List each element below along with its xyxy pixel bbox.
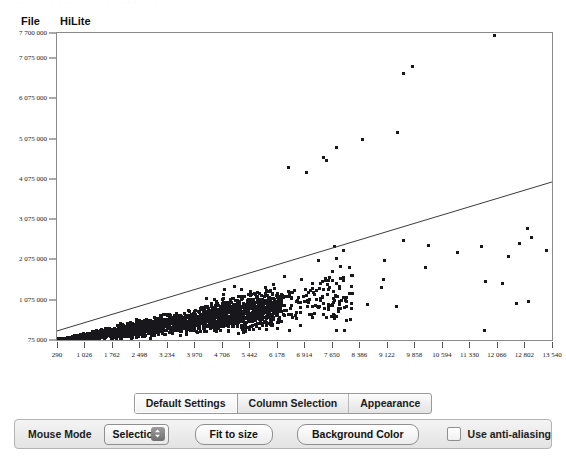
y-tick-mark: [49, 138, 56, 139]
x-tick-mark: [222, 342, 223, 348]
regression-line: [57, 33, 552, 340]
menu-bar: File HiLite: [0, 10, 566, 31]
x-tick-mark: [167, 342, 168, 348]
x-tick-mark: [332, 342, 333, 348]
x-tick-label: 3 234: [159, 351, 175, 359]
y-tick-label: 3 075 000: [19, 215, 47, 223]
use-antialiasing-checkbox[interactable]: [447, 427, 461, 441]
tab-appearance[interactable]: Appearance: [349, 394, 431, 413]
x-tick-mark: [57, 342, 58, 348]
y-tick-label: 7 075 000: [19, 54, 47, 62]
x-tick-label: 11 330: [460, 351, 479, 359]
background-color-button[interactable]: Background Color: [297, 424, 419, 445]
y-tick-label: 1 075 000: [19, 296, 47, 304]
x-tick-label: 10 594: [432, 351, 451, 359]
x-tick-label: 9 858: [407, 351, 423, 359]
x-tick-mark: [442, 342, 443, 348]
window-title-ghost: · · · · · · · · · · · · · · · · · · · · …: [10, 0, 165, 7]
x-tick-mark: [497, 342, 498, 348]
x-tick-label: 8 386: [352, 351, 368, 359]
x-tick-mark: [552, 342, 553, 348]
y-tick-mark: [49, 33, 56, 34]
x-tick-mark: [387, 342, 388, 348]
x-tick-label: 1 762: [104, 351, 120, 359]
y-tick-label: 7 700 000: [19, 29, 47, 37]
plot-area[interactable]: [56, 32, 553, 341]
x-tick-mark: [194, 342, 195, 348]
x-tick-label: 1 026: [77, 351, 93, 359]
x-tick-label: 7 650: [324, 351, 340, 359]
bottom-toolbar: Mouse Mode Selection Fit to size Backgro…: [14, 419, 552, 449]
regression-line-segment: [57, 182, 552, 331]
y-tick-label: 6 075 000: [19, 94, 47, 102]
x-tick-mark: [277, 342, 278, 348]
scatter-plot-window: · · · · · · · · · · · · · · · · · · · · …: [0, 0, 566, 459]
window-top-strip: · · · · · · · · · · · · · · · · · · · · …: [0, 0, 566, 10]
y-tick-mark: [49, 219, 56, 220]
x-tick-mark: [524, 342, 525, 348]
tab-column-selection[interactable]: Column Selection: [238, 394, 350, 413]
fit-to-size-button[interactable]: Fit to size: [195, 424, 273, 445]
chevron-updown-icon: [151, 427, 165, 441]
x-tick-label: 290: [52, 351, 63, 359]
segmented-control: Default Settings Column Selection Appear…: [134, 393, 433, 414]
x-tick-label: 12 802: [515, 351, 534, 359]
y-tick-mark: [49, 340, 56, 341]
x-tick-mark: [304, 342, 305, 348]
x-axis: 2901 0261 7622 4983 2343 9704 7065 4426 …: [0, 342, 566, 364]
use-antialiasing-row[interactable]: Use anti-aliasing: [447, 427, 551, 441]
x-tick-label: 3 970: [187, 351, 203, 359]
y-tick-label: 4 075 000: [19, 175, 47, 183]
settings-tabstrip: Default Settings Column Selection Appear…: [0, 392, 566, 414]
x-tick-label: 2 498: [132, 351, 148, 359]
mouse-mode-select[interactable]: Selection: [104, 424, 169, 445]
y-tick-label: 2 075 000: [19, 255, 47, 263]
y-tick-mark: [49, 299, 56, 300]
x-tick-label: 9 122: [379, 351, 395, 359]
x-tick-mark: [469, 342, 470, 348]
menu-hilite[interactable]: HiLite: [53, 14, 98, 28]
y-tick-mark: [49, 178, 56, 179]
y-axis: 75 0001 075 0002 075 0003 075 0004 075 0…: [0, 32, 56, 342]
y-tick-label: 5 075 000: [19, 135, 47, 143]
mouse-mode-label: Mouse Mode: [28, 428, 92, 440]
x-tick-mark: [139, 342, 140, 348]
use-antialiasing-label: Use anti-aliasing: [468, 428, 551, 440]
x-tick-label: 4 706: [214, 351, 230, 359]
x-tick-mark: [249, 342, 250, 348]
y-tick-mark: [49, 259, 56, 260]
x-tick-label: 5 442: [242, 351, 258, 359]
tab-default-settings[interactable]: Default Settings: [134, 394, 238, 413]
x-tick-label: 6 914: [297, 351, 313, 359]
x-tick-mark: [414, 342, 415, 348]
y-tick-mark: [49, 98, 56, 99]
x-tick-mark: [359, 342, 360, 348]
x-tick-label: 13 540: [542, 351, 561, 359]
y-tick-mark: [49, 58, 56, 59]
x-tick-mark: [84, 342, 85, 348]
x-tick-label: 12 066: [487, 351, 506, 359]
menu-file[interactable]: File: [14, 14, 47, 28]
x-tick-mark: [112, 342, 113, 348]
x-tick-label: 6 178: [269, 351, 285, 359]
